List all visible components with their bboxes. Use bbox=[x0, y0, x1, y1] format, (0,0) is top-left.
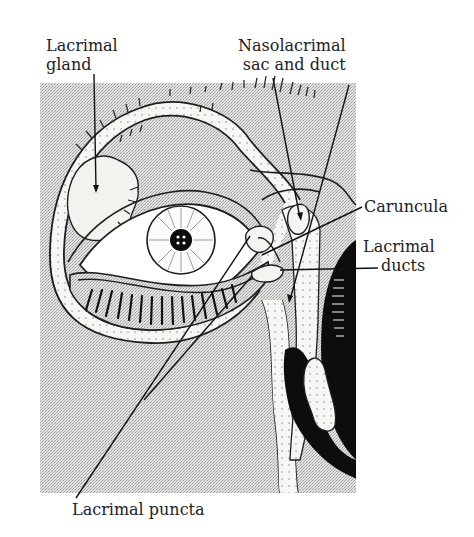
label-nasolacrimal-line1: Nasolacrimal bbox=[238, 36, 346, 55]
pupil bbox=[170, 229, 192, 251]
label-lacrimal-gland: Lacrimal gland bbox=[46, 36, 118, 74]
label-lacrimal-gland-line2: gland bbox=[46, 55, 118, 74]
label-nasolacrimal-sac-and-duct: Nasolacrimal sac and duct bbox=[238, 36, 346, 74]
caruncula bbox=[246, 226, 274, 252]
label-caruncula: Caruncula bbox=[364, 197, 448, 216]
label-lacrimal-ducts-line2: ducts bbox=[363, 256, 435, 275]
label-lacrimal-ducts: Lacrimal ducts bbox=[363, 237, 435, 275]
label-lacrimal-ducts-line1: Lacrimal bbox=[363, 237, 435, 256]
label-lacrimal-gland-line1: Lacrimal bbox=[46, 36, 118, 55]
label-lacrimal-puncta: Lacrimal puncta bbox=[72, 500, 205, 519]
label-nasolacrimal-line2: sac and duct bbox=[238, 55, 346, 74]
